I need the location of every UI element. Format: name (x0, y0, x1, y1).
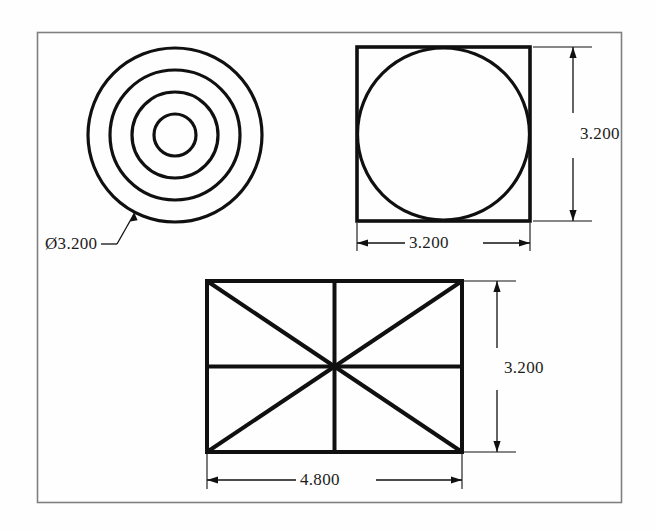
arrowhead-right-icon (519, 239, 530, 246)
rectangle-height-label: 3.200 (504, 358, 544, 378)
arrowhead-top-icon (493, 281, 500, 292)
arrowhead-right-icon (451, 476, 462, 483)
circle-inner (154, 114, 196, 156)
arrowhead-top-icon (569, 47, 576, 58)
inscribed-circle (358, 48, 530, 220)
arrowhead-left-icon (207, 476, 218, 483)
drawing-border (38, 33, 622, 503)
circle-diameter-label: Ø3.200 (45, 234, 97, 254)
diameter-leader (101, 212, 138, 244)
square-with-inscribed-circle-view (357, 47, 592, 251)
square-width-label: 3.200 (409, 233, 449, 253)
circle-outer (88, 48, 262, 222)
rectangle-width-label: 4.800 (300, 470, 340, 490)
circle-second (110, 70, 240, 200)
drawing-canvas (0, 0, 655, 530)
drawing-sheet: Ø3.200 3.200 3.200 4.800 3.200 (0, 0, 655, 530)
square-height-label: 3.200 (580, 124, 620, 144)
arrowhead-left-icon (357, 239, 368, 246)
circle-third (132, 92, 218, 178)
arrowhead-bottom-icon (493, 441, 500, 452)
rectangle-with-diagonals-view (207, 281, 516, 489)
arrowhead-bottom-icon (569, 210, 576, 221)
concentric-circles-view (88, 48, 262, 244)
